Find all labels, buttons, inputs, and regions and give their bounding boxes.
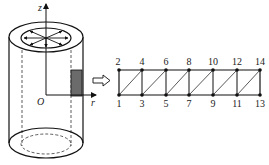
node-label-top: 2	[116, 56, 121, 67]
mesh-node	[258, 68, 262, 72]
node-label-top: 6	[164, 56, 169, 67]
mesh-node	[164, 68, 168, 72]
mesh-node	[235, 93, 239, 97]
cylinder-bottom-outer-back	[9, 128, 83, 143]
shaded-section	[71, 70, 82, 96]
figure-canvas: z r O	[0, 0, 269, 165]
z-axis-label: z	[37, 2, 42, 13]
mesh-diagonal-edge	[213, 70, 237, 95]
mesh-node	[235, 68, 239, 72]
mesh-diagonal-edge	[237, 70, 260, 95]
mesh-node	[164, 93, 168, 97]
mesh-node	[117, 68, 121, 72]
node-label-bottom: 1	[117, 98, 122, 109]
node-label-top: 12	[232, 56, 242, 67]
node-label-top: 4	[140, 56, 145, 67]
mesh-diagonal-edge	[119, 70, 142, 95]
mesh-diagonal-edge	[142, 70, 166, 95]
cylinder-bottom-outer-front	[9, 143, 83, 158]
hollow-right-arrow-icon	[93, 75, 110, 86]
mesh-node	[117, 93, 121, 97]
mesh-node	[258, 93, 262, 97]
node-label-bottom: 7	[187, 98, 192, 109]
node-label-bottom: 13	[255, 98, 265, 109]
mesh-node	[187, 68, 191, 72]
node-label-bottom: 9	[211, 98, 216, 109]
mesh-node-labels: 2 4 6 8 10 12 14 1 3 5 7 9 11 13	[116, 56, 266, 109]
node-label-bottom: 5	[164, 98, 169, 109]
mesh-diagonal-edge	[166, 70, 189, 95]
node-label-top: 14	[255, 56, 265, 67]
fem-mesh	[119, 70, 260, 95]
mesh-node	[140, 68, 144, 72]
mesh-node	[211, 68, 215, 72]
node-label-bottom: 11	[232, 98, 242, 109]
axes: z r O	[37, 2, 96, 108]
origin-label: O	[37, 96, 44, 107]
mesh-node	[187, 93, 191, 97]
cylinder-bottom-inner-ellipse	[21, 134, 71, 154]
node-label-bottom: 3	[140, 98, 145, 109]
mesh-node	[211, 93, 215, 97]
node-label-top: 10	[208, 56, 218, 67]
node-label-top: 8	[187, 56, 192, 67]
mesh-node	[140, 93, 144, 97]
r-axis-label: r	[91, 97, 95, 108]
mesh-diagonal-edge	[189, 70, 213, 95]
